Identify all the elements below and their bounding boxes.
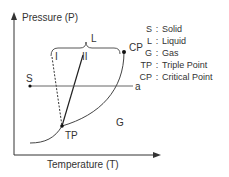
legend-item: G:Gas [128, 47, 213, 59]
x-axis-arrow-icon [153, 152, 161, 158]
brace-label: L [91, 34, 97, 44]
triple-point-label: TP [65, 131, 78, 141]
x-axis-label: Temperature (T) [47, 160, 119, 170]
y-axis-arrow-icon [11, 12, 17, 20]
start-point-dot [28, 84, 31, 87]
sublimation-curve [30, 126, 62, 143]
start-point-label: S [26, 74, 33, 84]
y-axis-label: Pressure (P) [22, 13, 78, 23]
line-label-i: I [55, 52, 58, 62]
melting-line-ii [62, 55, 83, 126]
end-point-label: a [135, 82, 141, 92]
triple-point-dot [60, 124, 64, 128]
line-label-ii: II [82, 52, 88, 62]
legend-item: S:Solid [128, 23, 213, 35]
legend-item: CP:Critical Point [128, 71, 213, 83]
legend-item: TP:Triple Point [128, 59, 213, 71]
legend-item: L:Liquid [128, 35, 213, 47]
melting-line-i [52, 57, 62, 126]
legend: S:Solid L:Liquid G:Gas TP:Triple Point C… [128, 23, 213, 83]
critical-point-dot [122, 50, 126, 54]
vaporization-curve [62, 52, 124, 126]
gas-region-label: G [116, 118, 124, 128]
